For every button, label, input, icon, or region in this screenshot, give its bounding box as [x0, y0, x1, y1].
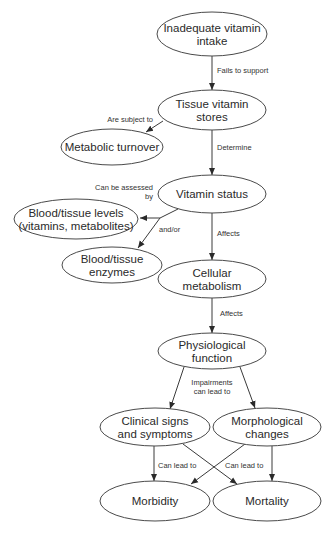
- node-label: metabolism: [183, 280, 242, 292]
- node-levels: Blood/tissue levels(vitamins, metabolite…: [14, 199, 138, 239]
- edge-physio-to-morpho: [240, 367, 255, 408]
- edge-physio-to-clinical: [170, 367, 184, 409]
- edge-label-are-subject-to: Are subject to: [107, 115, 153, 124]
- node-enzymes: Blood/tissueenzymes: [62, 247, 162, 283]
- edge-label-affects-1: Affects: [217, 229, 240, 238]
- node-label: intake: [197, 35, 228, 47]
- node-label: Clinical signs: [121, 415, 188, 427]
- edge-label-affects-2: Affects: [220, 309, 243, 318]
- node-stores: Tissue vitaminstores: [158, 90, 266, 130]
- edge-label-can-lead-to-2: Can lead to: [225, 461, 263, 470]
- node-label: Inadequate vitamin: [163, 22, 260, 34]
- node-label: Vitamin status: [176, 188, 248, 200]
- node-label: Blood/tissue: [81, 253, 144, 265]
- edge-label-can-be-assessed-by: by: [145, 192, 153, 201]
- node-morbidity: Morbidity: [100, 481, 210, 521]
- node-label: stores: [196, 111, 228, 123]
- edge-junction-to-enzymes: [138, 218, 160, 248]
- node-label: Cellular: [193, 267, 232, 279]
- node-cellular: Cellularmetabolism: [158, 260, 266, 298]
- edge-label-impairments: can lead to: [194, 387, 231, 396]
- node-mortality: Mortality: [213, 481, 321, 521]
- node-label: function: [192, 352, 232, 364]
- node-turnover: Metabolic turnover: [61, 129, 163, 165]
- node-intake: Inadequate vitaminintake: [157, 12, 267, 56]
- node-label: Morbidity: [132, 495, 179, 507]
- node-status: Vitamin status: [158, 175, 266, 213]
- node-label: Morphological: [231, 415, 303, 427]
- nodes-layer: Inadequate vitaminintakeTissue vitaminst…: [14, 12, 321, 521]
- node-label: Physiological: [178, 339, 245, 351]
- edge-label-can-lead-to-1: Can lead to: [158, 461, 196, 470]
- edge-label-and-or: and/or: [159, 225, 181, 234]
- edge-status-to-junction: [160, 209, 178, 218]
- vitamin-deficiency-flowchart: Inadequate vitaminintakeTissue vitaminst…: [0, 0, 322, 537]
- node-morpho: Morphologicalchanges: [213, 408, 321, 446]
- edge-label-impairments: Impairments: [191, 378, 233, 387]
- node-label: Metabolic turnover: [65, 141, 160, 153]
- node-label: enzymes: [89, 266, 135, 278]
- node-label: Blood/tissue levels: [28, 207, 123, 219]
- node-label: Tissue vitamin: [175, 98, 248, 110]
- edge-label-determine: Determine: [217, 143, 252, 152]
- edge-label-fails-to-support: Fails to support: [217, 66, 269, 75]
- node-label: (vitamins, metabolites): [18, 220, 133, 232]
- node-clinical: Clinical signsand symptoms: [100, 408, 210, 446]
- node-label: and symptoms: [118, 428, 193, 440]
- node-physio: Physiologicalfunction: [158, 333, 266, 369]
- node-label: changes: [245, 428, 289, 440]
- edge-label-can-be-assessed-by: Can be assessed: [95, 183, 153, 192]
- node-label: Mortality: [245, 495, 289, 507]
